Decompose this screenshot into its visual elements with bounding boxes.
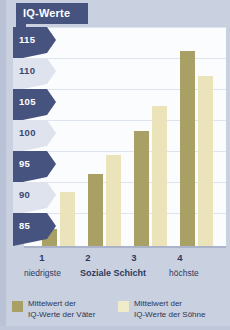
bar-sons-4	[198, 76, 213, 247]
chart-root: 115 110 105 100 95 90 85 IQ-Werte 1 2 3 …	[0, 0, 230, 330]
y-tick-85-label: 85	[19, 220, 30, 231]
y-tick-95-label: 95	[19, 158, 30, 169]
legend-swatch-fathers-icon	[12, 301, 23, 312]
frame-left-edge	[0, 0, 6, 330]
legend-label-sons-line1: Mittelwert der	[134, 299, 182, 308]
legend-label-fathers-line2: IQ-Werte der Väter	[28, 310, 95, 319]
x-axis-caption-highest: höchste	[169, 268, 199, 278]
legend-label-sons-line2: IQ-Werte der Söhne	[134, 310, 205, 319]
y-tick-105: 105	[13, 89, 47, 115]
tab-notch-icon	[47, 27, 56, 53]
axis-baseline	[24, 246, 226, 248]
tab-notch-icon	[47, 213, 56, 239]
y-tick-90-label: 90	[19, 189, 30, 200]
bar-sons-3	[152, 106, 167, 247]
x-tick-2: 2	[70, 252, 106, 263]
bar-sons-2	[106, 155, 121, 247]
bar-fathers-2	[88, 174, 103, 247]
tab-notch-icon	[47, 58, 56, 84]
bar-fathers-4	[180, 51, 195, 247]
chart-legend: Mittelwert der IQ-Werte der Väter Mittel…	[12, 299, 222, 327]
y-tick-115-label: 115	[19, 34, 35, 45]
tab-notch-icon	[47, 89, 56, 115]
y-tick-105-label: 105	[19, 96, 36, 107]
x-axis-caption-lowest: niedrigste	[24, 268, 61, 278]
tab-notch-icon	[47, 182, 56, 208]
bar-sons-1	[60, 192, 75, 247]
legend-label-sons: Mittelwert der IQ-Werte der Söhne	[134, 298, 226, 320]
tab-notch-icon	[47, 120, 56, 146]
y-tick-95: 95	[13, 151, 47, 177]
y-tick-85: 85	[13, 213, 47, 239]
y-tick-110: 110	[13, 58, 47, 84]
y-tick-115: 115	[13, 27, 47, 53]
legend-label-fathers: Mittelwert der IQ-Werte der Väter	[28, 298, 120, 320]
y-tick-110-label: 110	[19, 65, 35, 76]
y-tick-90: 90	[13, 182, 47, 208]
chart-title: IQ-Werte	[16, 3, 88, 24]
x-tick-1: 1	[24, 252, 60, 263]
x-axis-title: Soziale Schicht	[80, 268, 146, 278]
legend-swatch-sons-icon	[118, 301, 129, 312]
legend-label-fathers-line1: Mittelwert der	[28, 299, 76, 308]
x-tick-4: 4	[162, 252, 198, 263]
y-tick-100: 100	[13, 120, 47, 146]
tab-notch-icon	[47, 151, 56, 177]
bar-fathers-3	[134, 131, 149, 247]
y-tick-100-label: 100	[19, 127, 36, 138]
x-tick-3: 3	[116, 252, 152, 263]
